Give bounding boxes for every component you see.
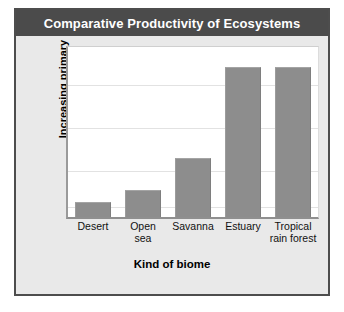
bar-slot-estuary (218, 47, 268, 217)
figure-frame: Comparative Productivity of Ecosystems I… (14, 8, 330, 296)
x-tick-tropical-line-1: Tropical (269, 220, 317, 232)
x-tick-open-sea-line-1: Open (119, 220, 167, 232)
x-tick-estuary-line-1: Estuary (219, 220, 267, 232)
bar-open-sea[interactable] (125, 190, 161, 217)
x-tick-desert-line-1: Desert (69, 220, 117, 232)
chart-body: Increasing primary productivity (16, 36, 328, 294)
bar-tropical-rain-forest[interactable] (275, 67, 311, 217)
plot-area (66, 46, 319, 219)
x-tick-open-sea-line-2: sea (119, 232, 167, 244)
x-tick-savanna-line-1: Savanna (169, 220, 217, 232)
x-tick-savanna: Savanna (168, 220, 218, 254)
bar-estuary[interactable] (225, 67, 261, 217)
x-axis-tick-labels: Desert Open sea Savanna Estuary Tropical… (68, 220, 318, 254)
x-tick-tropical-line-2: rain forest (269, 232, 317, 244)
bar-savanna[interactable] (175, 158, 211, 217)
bar-slot-desert (68, 47, 118, 217)
bar-slot-savanna (168, 47, 218, 217)
bar-slot-tropical-rain-forest (268, 47, 318, 217)
bar-slot-open-sea (118, 47, 168, 217)
x-tick-open-sea: Open sea (118, 220, 168, 254)
bar-desert[interactable] (75, 202, 111, 217)
x-tick-desert: Desert (68, 220, 118, 254)
x-tick-tropical-rain-forest: Tropical rain forest (268, 220, 318, 254)
x-tick-estuary: Estuary (218, 220, 268, 254)
x-axis-title: Kind of biome (16, 258, 328, 270)
bars-layer (68, 47, 318, 217)
